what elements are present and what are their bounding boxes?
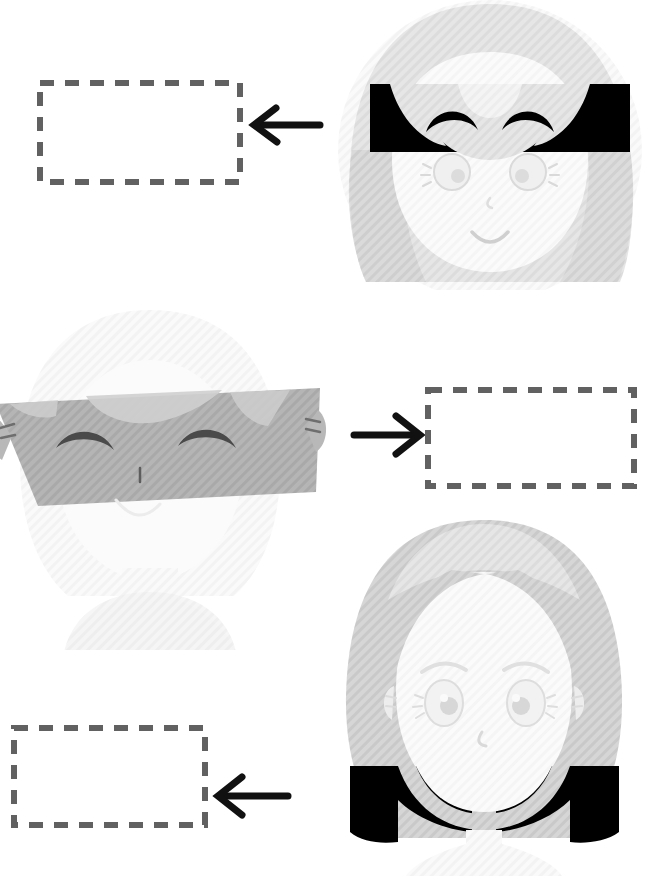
face-sad [320,500,649,876]
arrow-left-1 [248,102,328,150]
arrow-left-3 [212,770,294,820]
face-smiling-censored [330,0,649,290]
arrow-right-2 [350,410,430,458]
answer-box-2[interactable] [425,387,637,489]
answer-box-3[interactable] [11,725,208,828]
worksheet-page: Faces and empty answer boxes worksheet [0,0,649,876]
answer-box-1[interactable] [37,80,243,185]
face-closed-eyes-faded [0,300,330,650]
